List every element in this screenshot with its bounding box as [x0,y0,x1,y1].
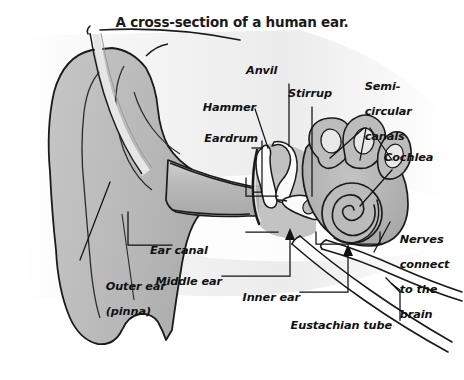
ear-cross-section-illustration [0,0,464,380]
label-anvil: Anvil [246,65,277,78]
label-semicircular-canals-line2: circular [365,105,412,118]
label-ear-canal: Ear canal [150,245,208,258]
label-inner-ear: Inner ear [218,292,300,305]
label-eustachian-tube: Eustachian tube [280,320,392,333]
label-outer-ear-line2: (pinna) [106,305,151,318]
label-cochlea: Cochlea [384,152,433,165]
label-nerves-line3: to the [400,283,438,296]
label-semicircular-canals-line3: canals [365,130,405,143]
label-stirrup: Stirrup [288,88,332,101]
label-hammer: Hammer [140,102,256,115]
label-nerves-line4: brain [400,308,433,321]
label-nerves-line1: Nerves [400,233,444,246]
label-semicircular-canals: Semi- circular canals [357,68,412,144]
label-middle-ear: Middle ear [142,276,222,289]
label-nerves-connect-to-brain: Nerves connect to the brain [392,221,449,322]
label-nerves-line2: connect [400,258,450,271]
label-semicircular-canals-line1: Semi- [365,80,401,93]
label-eardrum: Eardrum [140,133,258,146]
